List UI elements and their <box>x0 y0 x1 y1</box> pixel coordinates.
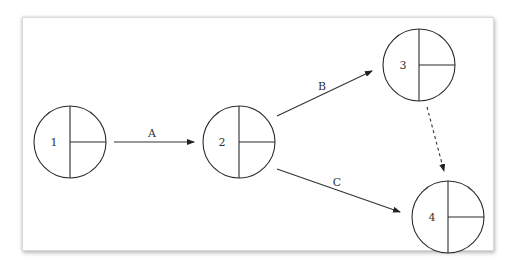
edge-label-b: B <box>318 80 326 93</box>
dashed-arrow-icon <box>427 107 444 171</box>
edge-a: A <box>114 127 194 142</box>
edge-dummy <box>427 107 444 171</box>
edge-label-a: A <box>147 127 157 140</box>
node-1: 1 <box>34 106 106 178</box>
node-label: 2 <box>219 136 226 149</box>
node-label: 3 <box>400 59 407 72</box>
edge-b: B <box>277 71 372 116</box>
edge-c: C <box>277 169 400 212</box>
network-diagram: A B C 1 2 3 4 <box>0 0 515 270</box>
node-3: 3 <box>383 29 455 101</box>
node-label: 4 <box>429 211 436 224</box>
node-4: 4 <box>412 181 484 253</box>
node-2: 2 <box>203 106 275 178</box>
node-label: 1 <box>51 136 58 149</box>
edge-label-c: C <box>333 176 341 189</box>
arrow-icon <box>277 71 372 116</box>
